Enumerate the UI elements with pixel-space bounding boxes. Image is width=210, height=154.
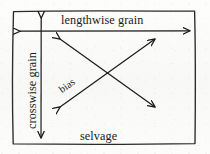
selvage-label: selvage bbox=[80, 129, 117, 144]
fabric-grain-diagram: lengthwise grain crosswise grain bias se… bbox=[0, 0, 210, 154]
lengthwise-grain-label: lengthwise grain bbox=[61, 13, 144, 28]
crosswise-grain-label: crosswise grain bbox=[25, 52, 40, 129]
